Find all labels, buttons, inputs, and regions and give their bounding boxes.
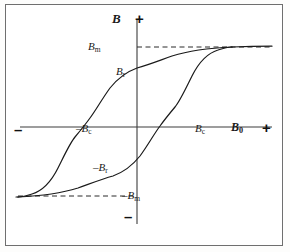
horizontal-axis-subscript: 0: [239, 126, 243, 135]
horizontal-axis-minus-sign: –: [14, 122, 22, 137]
remanence-negative-label: –Br: [93, 162, 108, 173]
saturation-negative-prefix: –: [122, 189, 128, 201]
coercivity-negative-subscript: c: [88, 127, 91, 136]
coercivity-negative-label: –Bc: [76, 123, 92, 134]
remanence-positive-subscript: r: [123, 70, 126, 79]
saturation-positive-subscript: m: [95, 45, 101, 54]
remanence-negative-prefix: –: [93, 161, 99, 173]
vertical-axis-plus-sign: +: [135, 11, 144, 26]
hysteresis-figure: B + Bm Br –Bc Bc B0 + – –Br –Bm –: [0, 0, 290, 252]
remanence-negative-subscript: r: [105, 166, 108, 175]
horizontal-axis-symbol: B: [231, 120, 239, 134]
remanence-positive-label: Br: [116, 66, 125, 77]
saturation-negative-label: –Bm: [122, 190, 140, 201]
horizontal-axis-label: B0: [231, 121, 243, 133]
coercivity-positive-label: Bc: [195, 123, 205, 134]
coercivity-positive-subscript: c: [202, 127, 205, 136]
vertical-axis-minus-sign: –: [124, 209, 132, 224]
saturation-negative-subscript: m: [134, 194, 140, 203]
coercivity-negative-prefix: –: [76, 122, 82, 134]
hysteresis-plot-svg: [0, 0, 290, 252]
saturation-positive-label: Bm: [88, 41, 101, 52]
vertical-axis-label: B: [112, 12, 121, 25]
horizontal-axis-plus-sign: +: [262, 120, 271, 135]
